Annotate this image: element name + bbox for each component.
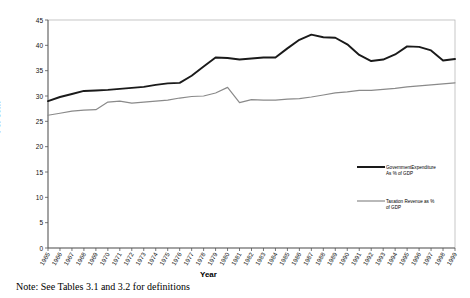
y-axis-tick-label: 5 xyxy=(39,219,43,226)
x-axis-tick-label: 1978 xyxy=(194,251,207,267)
x-axis-tick-label: 1984 xyxy=(266,251,279,267)
x-axis-tick-label: 1998 xyxy=(433,251,446,267)
x-axis-tick-label: 1968 xyxy=(74,251,87,267)
x-axis-tick-label: 1979 xyxy=(206,251,219,267)
x-axis-tick-label: 1983 xyxy=(254,251,267,267)
x-axis-tick-label: 1971 xyxy=(110,251,123,267)
figure-note: Note: See Tables 3.1 and 3.2 for definit… xyxy=(16,281,190,292)
x-axis-tick-label: 1999 xyxy=(445,251,458,267)
x-axis-tick-label: 1989 xyxy=(325,251,338,267)
x-axis-title: Year xyxy=(200,270,217,279)
y-axis-title: Per cent xyxy=(0,119,2,133)
x-axis-tick-label: 1973 xyxy=(134,251,147,267)
x-axis-tick-label: 1977 xyxy=(182,251,195,267)
y-axis-tick-label: 25 xyxy=(36,118,44,125)
x-axis-tick-label: 1982 xyxy=(242,251,255,267)
x-axis-tick-label: 1996 xyxy=(409,251,422,267)
y-axis-tick-label: 30 xyxy=(36,93,44,100)
x-axis-tick-label: 1986 xyxy=(290,251,303,267)
series-line-government-expenditure xyxy=(48,35,455,101)
x-axis-tick-label: 1997 xyxy=(421,251,434,267)
x-axis-tick-label: 1976 xyxy=(170,251,183,267)
x-axis-tick-label: 1992 xyxy=(361,251,374,267)
x-axis-tick-label: 1991 xyxy=(349,251,362,267)
x-axis-tick-label: 1969 xyxy=(86,251,99,267)
x-axis-tick-label: 1994 xyxy=(385,251,398,267)
y-axis-tick-label: 0 xyxy=(39,245,43,252)
x-axis-tick-label: 1972 xyxy=(122,251,135,267)
x-axis-tick-label: 1985 xyxy=(278,251,291,267)
x-axis-tick-label: 1966 xyxy=(50,251,63,267)
x-axis-tick-label: 1995 xyxy=(397,251,410,267)
x-axis-tick-label: 1980 xyxy=(218,251,231,267)
y-axis-tick-label: 45 xyxy=(36,17,44,24)
x-axis-tick-label: 1965 xyxy=(38,251,51,267)
y-axis-tick-label: 15 xyxy=(36,169,44,176)
legend-label-government-expenditure: GovernmentExpenditure As % of GDP xyxy=(386,165,436,177)
y-axis-tick-label: 10 xyxy=(36,194,44,201)
x-axis-tick-label: 1974 xyxy=(146,251,159,267)
line-chart: 0510152025303540451965196619671968196919… xyxy=(0,0,470,298)
x-axis-tick-label: 1990 xyxy=(337,251,350,267)
legend-label-taxation-revenue: Taxation Revenue as % of GDP xyxy=(386,199,434,211)
series-line-taxation-revenue xyxy=(48,83,455,115)
y-axis-tick-label: 20 xyxy=(36,143,44,150)
x-axis-tick-label: 1970 xyxy=(98,251,111,267)
x-axis-tick-label: 1987 xyxy=(301,251,314,267)
y-axis-tick-label: 35 xyxy=(36,67,44,74)
x-axis-tick-label: 1975 xyxy=(158,251,171,267)
x-axis-tick-label: 1988 xyxy=(313,251,326,267)
y-axis-tick-label: 40 xyxy=(36,42,44,49)
chart-figure: 0510152025303540451965196619671968196919… xyxy=(0,0,470,298)
x-axis-tick-label: 1967 xyxy=(62,251,75,267)
x-axis-tick-label: 1981 xyxy=(230,251,243,267)
x-axis-tick-label: 1993 xyxy=(373,251,386,267)
